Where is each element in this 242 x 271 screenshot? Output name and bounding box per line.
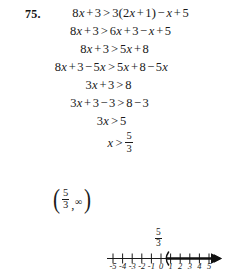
operator: + <box>67 61 77 74</box>
equation-step-2: 8x+3>6x+3−x+5 <box>9 22 232 40</box>
term: 8 <box>125 79 131 92</box>
relation-sign: > <box>109 43 120 56</box>
tick-label-row: -5 -4 -3 -2 -1 0 1 2 3 4 5 <box>0 261 223 269</box>
fraction-denominator: 3 <box>125 142 132 154</box>
term: 8 <box>143 43 149 56</box>
operator: + <box>93 43 103 56</box>
tick-label: 2 <box>178 261 182 271</box>
tick-label: -1 <box>148 261 155 271</box>
equation-step-5: 3x+3>8 <box>0 76 220 94</box>
operator: + <box>82 25 92 38</box>
relation-sign: > <box>113 137 124 150</box>
operator: − <box>138 25 148 38</box>
interval-open-paren: ( <box>53 188 60 210</box>
relation-sign: > <box>115 97 126 110</box>
variable: x <box>162 61 168 74</box>
tick-label: 0 <box>159 261 163 271</box>
tick-label: -5 <box>109 261 116 271</box>
operator: − <box>99 97 109 110</box>
tick-label: 1 <box>168 261 172 271</box>
tick-label: 4 <box>197 261 201 271</box>
operator: + <box>129 61 139 74</box>
operator: + <box>135 7 145 20</box>
term: 3 <box>143 97 149 110</box>
term: 5 <box>120 115 126 128</box>
fraction-numerator: 5 <box>62 188 69 199</box>
tick-label: -3 <box>129 261 136 271</box>
operator: − <box>146 61 156 74</box>
operator: + <box>85 7 95 20</box>
equation-step-8: x>53 <box>9 130 232 156</box>
fraction-numerator: 5 <box>125 131 132 142</box>
tick-label: -2 <box>138 261 145 271</box>
interval-fraction: 53 <box>62 188 69 212</box>
term: 5 <box>182 7 188 20</box>
relation-sign: > <box>101 7 112 20</box>
fraction-numerator: 5 <box>155 228 162 238</box>
operator: − <box>84 61 94 74</box>
relation-sign: > <box>106 61 117 74</box>
term: 5 <box>165 25 171 38</box>
equation-step-1: 8x+3>3(2x+1)−x+5 <box>19 4 242 22</box>
equation-step-3: 8x+3>5x+8 <box>3 40 226 58</box>
fraction-five-thirds-label: 53 <box>155 228 162 250</box>
interval-close-paren: ) <box>84 188 91 210</box>
relation-sign: > <box>109 115 120 128</box>
interval-notation: (53,∞) <box>52 188 92 212</box>
operator: + <box>155 25 165 38</box>
equation-step-7: 3x>5 <box>0 112 223 130</box>
equation-stack: 8x+3>3(2x+1)−x+5 8x+3>6x+3−x+5 8x+3>5x+8… <box>0 4 223 156</box>
tick-label: 3 <box>188 261 192 271</box>
operator: + <box>98 79 108 92</box>
equation-step-6: 3x+3−3>8−3 <box>0 94 221 112</box>
critical-point-label: 53 <box>154 228 163 250</box>
tick-label: 5 <box>207 261 211 271</box>
operator: + <box>132 43 142 56</box>
operator: + <box>172 7 182 20</box>
operator: − <box>133 97 143 110</box>
equation-step-4: 8x+3−5x>5x+8−5x <box>0 58 223 76</box>
fraction-denominator: 3 <box>155 238 162 249</box>
fraction-denominator: 3 <box>62 199 69 211</box>
relation-sign: > <box>99 25 110 38</box>
number-line: 53 <box>0 228 223 263</box>
operator: + <box>83 97 93 110</box>
operator: − <box>156 7 166 20</box>
relation-sign: > <box>114 79 125 92</box>
operator: + <box>122 25 132 38</box>
tick-label: -4 <box>119 261 126 271</box>
fraction-five-thirds: 53 <box>125 131 132 155</box>
infinity-symbol: ∞ <box>75 197 83 207</box>
